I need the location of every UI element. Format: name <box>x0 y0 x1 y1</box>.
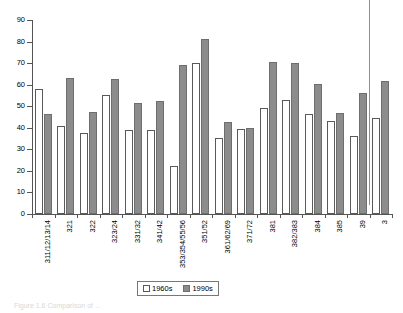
y-tick-label: 80 <box>1 38 25 46</box>
y-tick-label: 60 <box>1 81 25 89</box>
legend-item-1960s: 1960s <box>143 285 172 293</box>
bar-1990s <box>359 93 367 214</box>
x-tick-mark <box>55 214 56 218</box>
chart-figure: 0102030405060708090 311/12/13/1432132232… <box>0 0 403 313</box>
bar-1990s <box>111 79 119 214</box>
x-tick-mark <box>257 214 258 218</box>
bar-1960s <box>192 63 200 214</box>
y-tick-mark <box>27 106 33 107</box>
x-category-label: 321 <box>66 220 74 233</box>
legend-item-1990s: 1990s <box>183 285 212 293</box>
bar-1990s <box>89 112 97 214</box>
x-category-label: 353/354/55/56 <box>179 220 187 268</box>
x-tick-mark <box>77 214 78 218</box>
bar-group <box>282 20 300 214</box>
bar-1990s <box>44 114 52 214</box>
y-tick-label: 10 <box>1 188 25 196</box>
y-tick-label: 70 <box>1 59 25 67</box>
plot-area <box>32 20 392 214</box>
x-tick-mark <box>392 214 393 218</box>
bar-group <box>305 20 323 214</box>
x-category-label: 39 <box>359 220 367 228</box>
bar-1960s <box>125 130 133 214</box>
bar-group <box>170 20 188 214</box>
bar-1960s <box>147 130 155 214</box>
bar-group <box>102 20 120 214</box>
x-category-label: 371/72 <box>246 220 254 243</box>
bar-group <box>147 20 165 214</box>
x-category-label: 385 <box>336 220 344 233</box>
x-category-label: 381 <box>269 220 277 233</box>
bar-group <box>125 20 143 214</box>
bar-1990s <box>134 103 142 214</box>
bar-group <box>35 20 53 214</box>
bar-group <box>192 20 210 214</box>
bar-group <box>237 20 255 214</box>
bar-1960s <box>260 108 268 214</box>
y-tick-label: 50 <box>1 102 25 110</box>
bar-1990s <box>246 128 254 214</box>
x-tick-mark <box>167 214 168 218</box>
bar-1960s <box>170 166 178 215</box>
y-tick-mark <box>27 128 33 129</box>
bar-1990s <box>179 65 187 214</box>
x-category-label: 341/42 <box>156 220 164 243</box>
chart-legend: 1960s 1990s <box>137 281 219 296</box>
x-tick-mark <box>347 214 348 218</box>
bar-1990s <box>201 39 209 214</box>
bar-1960s <box>80 133 88 214</box>
x-category-label: 361/62/69 <box>224 220 232 253</box>
y-tick-mark <box>27 214 33 215</box>
bar-1960s <box>372 118 380 214</box>
bar-1990s <box>381 81 389 214</box>
y-tick-mark <box>27 149 33 150</box>
y-tick-mark <box>27 42 33 43</box>
bar-1960s <box>305 114 313 214</box>
bar-1990s <box>224 122 232 214</box>
x-tick-mark <box>122 214 123 218</box>
x-category-label: 3 <box>381 220 389 224</box>
x-tick-mark <box>370 214 371 218</box>
bar-group <box>350 20 368 214</box>
bar-group <box>57 20 75 214</box>
legend-swatch-1960s-icon <box>143 285 150 292</box>
bar-1960s <box>35 89 43 214</box>
y-tick-mark <box>27 20 33 21</box>
x-tick-mark <box>212 214 213 218</box>
x-category-label: 384 <box>314 220 322 233</box>
y-tick-label: 30 <box>1 145 25 153</box>
x-category-label: 322 <box>89 220 97 233</box>
bar-1990s <box>156 101 164 214</box>
legend-swatch-1990s-icon <box>183 285 190 292</box>
bar-group <box>372 20 390 214</box>
bar-group <box>327 20 345 214</box>
y-tick-mark <box>27 192 33 193</box>
bar-1990s <box>314 84 322 214</box>
x-tick-mark <box>302 214 303 218</box>
bar-1990s <box>269 62 277 214</box>
bar-1990s <box>336 113 344 214</box>
x-tick-mark <box>235 214 236 218</box>
legend-label-1960s: 1960s <box>152 285 172 293</box>
x-tick-mark <box>145 214 146 218</box>
y-tick-label: 40 <box>1 124 25 132</box>
y-tick-mark <box>27 171 33 172</box>
figure-caption: Figure 1.6 Comparison of ... <box>14 301 101 310</box>
x-tick-mark <box>280 214 281 218</box>
y-tick-label: 20 <box>1 167 25 175</box>
stray-vertical-rule <box>369 0 370 205</box>
y-tick-label: 90 <box>1 16 25 24</box>
legend-label-1990s: 1990s <box>192 285 212 293</box>
x-category-label: 382/383 <box>291 220 299 247</box>
x-tick-mark <box>190 214 191 218</box>
x-category-label: 311/12/13/14 <box>44 220 52 263</box>
x-category-label: 323/24 <box>111 220 119 243</box>
bar-1960s <box>102 95 110 214</box>
x-category-label: 331/32 <box>134 220 142 243</box>
bar-1960s <box>282 100 290 214</box>
bar-1960s <box>215 138 223 214</box>
x-tick-mark <box>325 214 326 218</box>
x-category-label: 351/52 <box>201 220 209 243</box>
y-axis-tick-labels: 0102030405060708090 <box>0 0 25 214</box>
y-tick-label: 0 <box>1 210 25 218</box>
